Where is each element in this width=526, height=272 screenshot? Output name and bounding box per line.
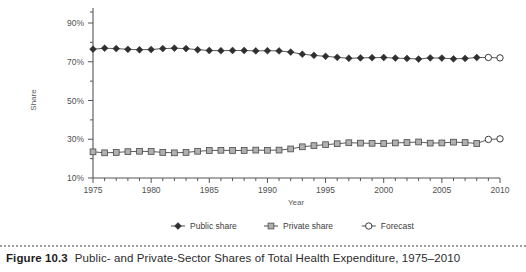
data-point-marker	[218, 147, 224, 153]
data-point-marker	[172, 150, 178, 156]
forecast-marker	[485, 54, 491, 60]
data-point-marker	[160, 150, 166, 156]
figure-title: Public- and Private-Sector Shares of Tot…	[75, 252, 460, 264]
x-tick-label: 1975	[84, 185, 103, 195]
y-tick-label: 70%	[67, 57, 84, 67]
legend-marker-filled-diamond	[175, 223, 182, 230]
legend-label: Forecast	[381, 221, 415, 231]
data-point-marker	[369, 140, 375, 146]
data-point-marker	[252, 48, 259, 55]
data-point-marker	[206, 47, 213, 54]
data-point-marker	[334, 54, 341, 61]
data-point-marker	[346, 140, 352, 146]
data-point-marker	[136, 46, 143, 53]
data-point-marker	[101, 45, 108, 52]
data-point-marker	[357, 54, 364, 61]
data-point-marker	[241, 148, 247, 154]
data-point-marker	[137, 148, 143, 154]
data-point-marker	[171, 45, 178, 52]
figure-number: Figure 10.3	[6, 252, 68, 264]
chart-legend: Public sharePrivate shareForecast	[171, 221, 414, 231]
data-point-marker	[90, 46, 97, 53]
data-point-marker	[90, 149, 96, 155]
data-point-marker	[439, 140, 445, 146]
data-point-marker	[392, 55, 399, 62]
legend-label: Private share	[283, 221, 333, 231]
x-tick-label: 2010	[491, 185, 510, 195]
data-point-marker	[229, 47, 236, 54]
data-point-marker	[322, 53, 329, 60]
x-axis-title: Year	[288, 198, 305, 207]
data-point-marker	[427, 140, 433, 146]
data-point-marker	[358, 140, 364, 146]
data-point-marker	[159, 45, 166, 52]
y-axis-title: Share	[29, 89, 38, 111]
data-point-marker	[230, 148, 236, 154]
data-point-marker	[334, 141, 340, 147]
data-point-marker	[287, 49, 294, 56]
series-lines	[93, 48, 500, 153]
data-point-marker	[265, 147, 271, 153]
data-point-marker	[323, 142, 329, 148]
data-point-marker	[206, 148, 212, 154]
data-point-marker	[415, 56, 422, 63]
data-point-marker	[288, 146, 294, 152]
data-point-marker	[369, 54, 376, 61]
data-point-marker	[124, 46, 131, 53]
y-tick-label: 90%	[67, 18, 84, 28]
data-point-marker	[451, 139, 457, 145]
data-point-marker	[427, 54, 434, 61]
data-point-marker	[276, 147, 282, 153]
data-point-marker	[148, 46, 155, 53]
x-tick-label: 1990	[258, 185, 277, 195]
line-chart: 10%30%50%70%90% 197519801985199019952000…	[0, 0, 526, 240]
legend-label: Public share	[190, 221, 237, 231]
data-point-marker	[276, 48, 283, 55]
data-point-marker	[264, 47, 271, 54]
data-point-marker	[462, 140, 468, 146]
data-point-marker	[404, 140, 410, 146]
data-point-marker	[148, 149, 154, 155]
data-point-marker	[380, 54, 387, 61]
data-point-marker	[473, 54, 480, 61]
data-point-marker	[195, 148, 201, 154]
y-tick-label: 30%	[67, 134, 84, 144]
data-point-marker	[183, 150, 189, 156]
x-tick-label: 2005	[432, 185, 451, 195]
data-point-marker	[299, 51, 306, 58]
data-point-marker	[474, 141, 480, 147]
data-point-marker	[299, 144, 305, 150]
data-point-marker	[416, 139, 422, 145]
data-point-marker	[102, 150, 108, 156]
data-point-marker	[241, 47, 248, 54]
chart-container: 10%30%50%70%90% 197519801985199019952000…	[0, 0, 526, 240]
y-tick-label: 10%	[67, 173, 84, 183]
y-tick-label: 50%	[67, 96, 84, 106]
forecast-marker	[485, 136, 491, 142]
x-tick-label: 1985	[200, 185, 219, 195]
caption-divider	[0, 245, 526, 249]
data-point-marker	[450, 55, 457, 62]
figure-caption: Figure 10.3Public- and Private-Sector Sh…	[6, 252, 520, 264]
data-point-marker	[311, 143, 317, 149]
x-tick-label: 1980	[142, 185, 161, 195]
data-point-marker	[311, 52, 318, 59]
data-point-marker	[392, 140, 398, 146]
forecast-marker	[497, 136, 503, 142]
legend-marker-filled-square	[268, 223, 274, 229]
data-point-marker	[345, 55, 352, 62]
legend-marker-open-circle	[366, 223, 372, 229]
x-tick-label: 1995	[316, 185, 335, 195]
data-point-marker	[113, 45, 120, 52]
data-point-marker	[462, 55, 469, 62]
data-point-marker	[194, 46, 201, 53]
data-point-marker	[113, 150, 119, 156]
y-axis-ticks: 10%30%50%70%90%	[67, 12, 93, 183]
data-point-marker	[183, 45, 190, 52]
figure-10-3: 10%30%50%70%90% 197519801985199019952000…	[0, 0, 526, 272]
data-point-marker	[218, 47, 225, 54]
data-point-marker	[404, 55, 411, 62]
data-point-marker	[125, 149, 131, 155]
forecast-marker	[497, 55, 503, 61]
data-point-marker	[253, 147, 259, 153]
